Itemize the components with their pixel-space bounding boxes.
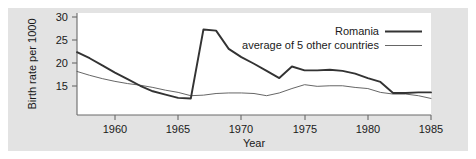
x-tick-label-1965: 1965 [166, 123, 190, 135]
legend-label-average-of-5-other-countries: average of 5 other countries [242, 39, 379, 51]
y-axis-ticks: 30 25 20 15 [56, 11, 77, 92]
x-axis-ticks: 1960 1965 1970 1975 1980 1985 [103, 115, 443, 135]
x-axis-title: Year [243, 137, 266, 149]
birth-rate-line-chart: 30 25 20 15 1960 1965 1970 1975 1980 198… [8, 8, 468, 151]
y-tick-label-25: 25 [56, 34, 68, 46]
y-tick-label-30: 30 [56, 11, 68, 23]
y-tick-label-20: 20 [56, 57, 68, 69]
x-tick-label-1985: 1985 [419, 123, 443, 135]
x-tick-label-1960: 1960 [103, 123, 127, 135]
x-tick-label-1970: 1970 [229, 123, 253, 135]
legend-label-romania: Romania [335, 25, 380, 37]
x-tick-label-1975: 1975 [293, 123, 317, 135]
y-axis-title: Birth rate per 1000 [26, 18, 38, 109]
x-tick-label-1980: 1980 [356, 123, 380, 135]
chart-figure: 30 25 20 15 1960 1965 1970 1975 1980 198… [8, 8, 468, 151]
y-tick-label-15: 15 [56, 80, 68, 92]
